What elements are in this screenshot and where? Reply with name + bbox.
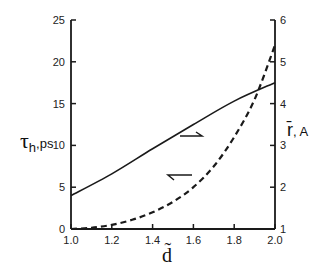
left-tick-label: 15 xyxy=(53,98,65,110)
left-tick-label: 5 xyxy=(59,181,65,193)
arrow-left-icon xyxy=(168,175,192,180)
annotations xyxy=(168,132,202,180)
x-axis-title: d̃ xyxy=(162,242,172,266)
right-tick-label: 4 xyxy=(280,98,286,110)
axes: 05101520251234561.01.21.41.61.82.0 xyxy=(53,14,286,246)
arrow-right-icon xyxy=(180,132,202,136)
dual-axis-line-chart: 05101520251234561.01.21.41.61.82.0 τh,ps… xyxy=(0,0,326,270)
right-tick-label: 6 xyxy=(280,14,286,26)
x-tick-label: 1.4 xyxy=(145,234,160,246)
right-tick-label: 2 xyxy=(280,181,286,193)
series-layer xyxy=(71,45,275,229)
left-axis-title: τh,ps xyxy=(20,128,54,155)
right-axis-title: r̄, A xyxy=(286,120,308,140)
right-tick-label: 5 xyxy=(280,56,286,68)
right-tick-label: 3 xyxy=(280,139,286,151)
x-tick-label: 1.0 xyxy=(63,234,78,246)
left-tick-label: 25 xyxy=(53,14,65,26)
left-tick-label: 20 xyxy=(53,56,65,68)
x-tick-label: 1.2 xyxy=(104,234,119,246)
left-tick-label: 10 xyxy=(53,139,65,151)
x-tick-label: 2.0 xyxy=(267,234,282,246)
x-tick-label: 1.6 xyxy=(186,234,201,246)
x-tick-label: 1.8 xyxy=(227,234,242,246)
